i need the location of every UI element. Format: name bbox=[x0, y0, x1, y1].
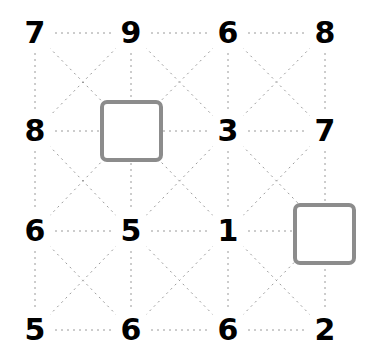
cell-square-r2c2[interactable] bbox=[100, 100, 163, 162]
grid-edge-layer bbox=[0, 0, 371, 359]
node-number-r4c3[interactable]: 6 bbox=[213, 314, 244, 346]
node-number-r2c1[interactable]: 8 bbox=[20, 115, 51, 147]
node-number-r4c2[interactable]: 6 bbox=[116, 314, 147, 346]
node-number-r1c4[interactable]: 8 bbox=[310, 17, 341, 49]
node-number-r1c1[interactable]: 7 bbox=[20, 17, 51, 49]
node-number-r1c3[interactable]: 6 bbox=[213, 17, 244, 49]
puzzle-board: 79688376515662 bbox=[0, 0, 371, 359]
edge-diagonal bbox=[242, 47, 311, 117]
node-number-r2c4[interactable]: 7 bbox=[310, 115, 341, 147]
node-number-r2c3[interactable]: 3 bbox=[213, 115, 244, 147]
node-number-r1c2[interactable]: 9 bbox=[116, 17, 147, 49]
edge-diagonal bbox=[49, 245, 117, 315]
node-number-r3c3[interactable]: 1 bbox=[213, 215, 244, 247]
edge-diagonal bbox=[145, 245, 214, 315]
node-number-r4c4[interactable]: 2 bbox=[310, 314, 341, 346]
cell-square-r3c4[interactable] bbox=[293, 203, 356, 265]
node-number-r4c1[interactable]: 5 bbox=[20, 314, 51, 346]
node-number-r3c1[interactable]: 6 bbox=[20, 215, 51, 247]
node-number-r3c2[interactable]: 5 bbox=[116, 215, 147, 247]
